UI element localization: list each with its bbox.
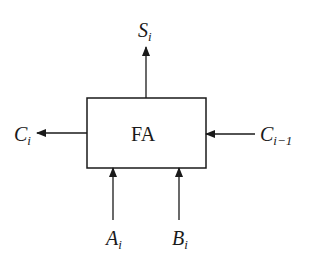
fa-block-label: FA: [131, 124, 155, 144]
carry-out-label-base: C: [14, 123, 27, 145]
input-b-label: Bi: [172, 228, 188, 251]
input-a-label-base: A: [106, 227, 118, 249]
sum-label-sub: i: [148, 29, 152, 44]
input-a-label: Ai: [106, 228, 122, 251]
carry-in-label-sub: i−1: [273, 133, 292, 148]
sum-label-base: S: [138, 19, 148, 41]
input-b-label-base: B: [172, 227, 184, 249]
input-b-label-sub: i: [184, 237, 188, 252]
sum-output-label: Si: [138, 20, 152, 43]
input-a-label-sub: i: [118, 237, 122, 252]
carry-out-label-sub: i: [27, 133, 31, 148]
carry-output-label: Ci: [14, 124, 31, 147]
carry-in-label-base: C: [260, 123, 273, 145]
carry-input-label: Ci−1: [260, 124, 292, 147]
